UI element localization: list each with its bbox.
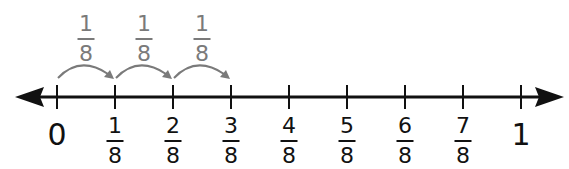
denominator: 8 [398, 145, 412, 167]
tick-label-0: 0 [47, 120, 66, 150]
denominator: 8 [282, 145, 296, 167]
tick-label-3-8: 38 [223, 115, 240, 167]
numerator: 1 [137, 13, 151, 35]
tick-label-1: 1 [511, 120, 530, 150]
jump-label-3: 18 [194, 13, 211, 65]
tick-label-4-8: 48 [281, 115, 298, 167]
number-line-diagram: 18 18 18 0 18 28 38 48 58 68 78 1 [0, 0, 569, 169]
denominator: 8 [79, 43, 93, 65]
numerator: 2 [166, 115, 180, 137]
numerator: 7 [456, 115, 470, 137]
numerator: 6 [398, 115, 412, 137]
denominator: 8 [137, 43, 151, 65]
numerator: 1 [195, 13, 209, 35]
right-arrow-icon [535, 87, 564, 107]
numerator: 3 [224, 115, 238, 137]
denominator: 8 [108, 145, 122, 167]
tick-label-1-8: 18 [107, 115, 124, 167]
jump-label-1: 18 [78, 13, 95, 65]
denominator: 8 [340, 145, 354, 167]
tick-label-7-8: 78 [455, 115, 472, 167]
denominator: 8 [456, 145, 470, 167]
denominator: 8 [166, 145, 180, 167]
numerator: 1 [108, 115, 122, 137]
tick-label-6-8: 68 [397, 115, 414, 167]
denominator: 8 [224, 145, 238, 167]
denominator: 8 [195, 43, 209, 65]
left-arrow-icon [15, 87, 44, 107]
numerator: 1 [79, 13, 93, 35]
numerator: 4 [282, 115, 296, 137]
numerator: 5 [340, 115, 354, 137]
tick-label-5-8: 58 [339, 115, 356, 167]
jump-arcs [58, 65, 224, 78]
jump-label-2: 18 [136, 13, 153, 65]
tick-label-2-8: 28 [165, 115, 182, 167]
